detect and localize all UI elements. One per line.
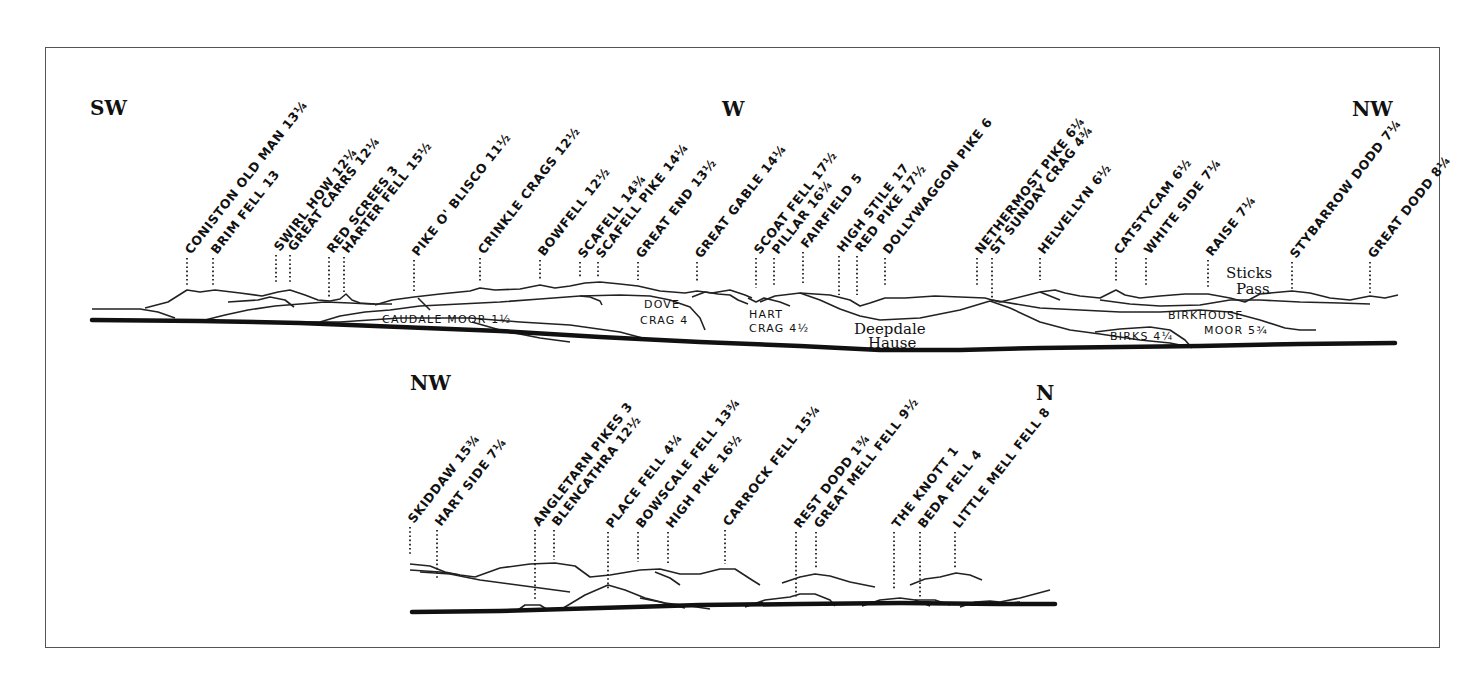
compass-label: NW [410, 371, 451, 395]
area-label: BIRKHOUSE [1168, 309, 1243, 322]
area-label: BIRKS 4¼ [1110, 330, 1173, 343]
compass-label: W [721, 97, 745, 121]
compass-label: NW [1352, 97, 1393, 121]
place-label: Hause [868, 334, 916, 352]
peak-label: NETHERMOST PIKE 6¼ [972, 114, 1088, 257]
peak-label: RAISE 7¼ [1203, 193, 1259, 259]
lower-panel: NWN SKIDDAW 15¾HART SIDE 7¼ANGLETARN PIK… [405, 371, 1055, 612]
panorama-drawing: SWWNW CONISTON OLD MAN 13¼BRIM FELL 13SW… [0, 0, 1482, 694]
peak-label: GREAT DODD 8¼ [1365, 153, 1454, 261]
lower-peak-labels: SKIDDAW 15¾HART SIDE 7¼ANGLETARN PIKES 3… [405, 395, 1054, 531]
peak-label: BLENCATHRA 12½ [549, 413, 644, 529]
area-label: CRAG 4 [640, 314, 688, 327]
upper-peak-labels: CONISTON OLD MAN 13¼BRIM FELL 13SWIRL HO… [182, 98, 1454, 261]
area-label: MOOR 5¾ [1204, 324, 1268, 337]
lower-ridges [410, 563, 1055, 612]
area-label: DOVE [644, 298, 680, 311]
upper-script-labels: SticksPassDeepdaleHause [854, 264, 1272, 352]
upper-panel: SWWNW CONISTON OLD MAN 13¼BRIM FELL 13SW… [90, 96, 1454, 352]
place-label: Pass [1236, 280, 1270, 298]
compass-label: SW [90, 96, 127, 120]
area-label: CAUDALE MOOR 1½ [382, 313, 511, 326]
compass-label: N [1036, 381, 1054, 405]
lower-peak-leaders [410, 527, 955, 600]
area-label: CRAG 4½ [749, 322, 809, 335]
area-label: HART [749, 308, 783, 321]
